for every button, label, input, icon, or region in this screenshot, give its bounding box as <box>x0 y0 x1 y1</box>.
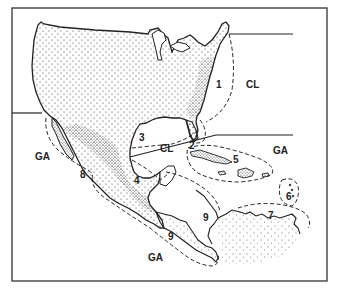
label-region-1: 1 <box>216 79 222 90</box>
regional-map: 1 CL 2 3 CL 4 5 GA 6 7 8 GA 9 9 GA <box>0 0 337 290</box>
label-region-3: 3 <box>139 132 145 143</box>
cuba-island <box>190 150 232 164</box>
label-region-7: 7 <box>268 210 274 221</box>
south-america <box>218 210 300 264</box>
north-america-landmass <box>32 22 229 228</box>
lesser-antilles-island <box>289 184 291 186</box>
label-cl-east: CL <box>246 79 259 90</box>
yucatan-peninsula <box>160 166 176 186</box>
label-ga-east: GA <box>273 145 288 156</box>
label-region-6: 6 <box>286 191 292 202</box>
jamaica-island <box>218 171 226 175</box>
label-ga-west: GA <box>35 151 50 162</box>
label-region-9-caribbean: 9 <box>203 212 209 223</box>
label-region-8: 8 <box>80 169 86 180</box>
label-region-9-pacific: 9 <box>168 231 174 242</box>
label-region-4: 4 <box>134 175 140 186</box>
hispaniola-island <box>238 168 254 178</box>
lesser-antilles-island <box>292 195 294 197</box>
label-region-5: 5 <box>233 154 239 165</box>
label-cl-gulf: CL <box>160 143 173 154</box>
label-region-2: 2 <box>189 140 195 151</box>
label-ga-south: GA <box>148 252 163 263</box>
caribbean-islands <box>190 150 294 197</box>
